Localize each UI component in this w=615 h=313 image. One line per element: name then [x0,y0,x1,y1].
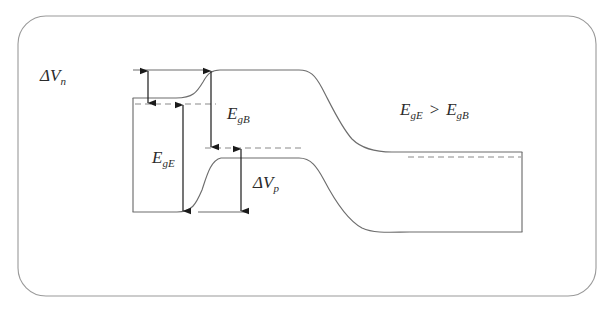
inequality-operator: > [430,100,440,119]
band-diagram: ΔVn ΔVp EgB EgE EgE>EgB [0,0,615,313]
inequality-right-base: E [445,100,457,119]
delta-vp-base: ΔV [252,173,276,192]
rounded-frame [18,16,596,296]
figure-root: ΔVn ΔVp EgB EgE EgE>EgB [0,0,615,313]
delta-vn-base: ΔV [39,66,63,85]
inequality-left-sub: gE [410,109,423,121]
e-gb-sub: gB [237,113,250,125]
e-ge-base: E [151,148,163,167]
e-gb-base: E [226,104,238,123]
e-gb-label: EgB [226,104,250,125]
bandgap-inequality-label: EgE>EgB [399,100,469,121]
delta-vp-sub: p [272,182,279,194]
delta-vn-label: ΔVn [39,66,66,87]
valence-band-curve [133,158,522,232]
e-ge-sub: gE [162,157,175,169]
inequality-right-sub: gB [457,109,470,121]
delta-vp-label: ΔVp [252,173,279,194]
delta-vn-sub: n [60,75,66,87]
e-ge-label: EgE [151,148,175,169]
inequality-left-base: E [399,100,411,119]
